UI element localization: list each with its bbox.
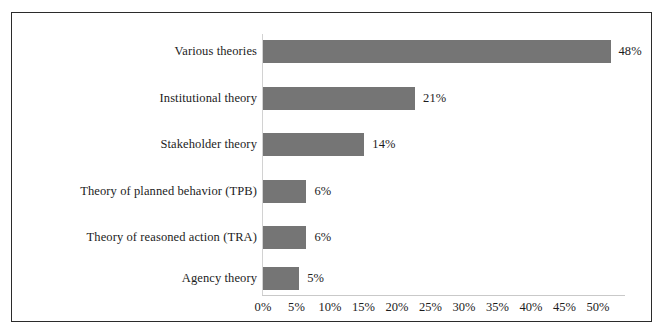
chart-figure: Various theories 48% Institutional theor…: [0, 0, 667, 335]
bar-various-theories[interactable]: [263, 40, 611, 63]
category-label-theory-of-reasoned-action: Theory of reasoned action (TRA): [87, 230, 257, 245]
bar-value-theory-of-planned-behavior: 6%: [314, 184, 331, 199]
bar-value-theory-of-reasoned-action: 6%: [314, 230, 331, 245]
xtick-label-4: 20%: [385, 300, 408, 315]
bar-agency-theory[interactable]: [263, 267, 299, 290]
bar-value-various-theories: 48%: [619, 44, 642, 59]
xtick-label-5: 25%: [419, 300, 442, 315]
bar-theory-of-planned-behavior[interactable]: [263, 180, 306, 203]
xtick-label-10: 50%: [586, 300, 609, 315]
xtick-label-1: 5%: [288, 300, 305, 315]
category-label-agency-theory: Agency theory: [182, 271, 257, 286]
bar-theory-of-reasoned-action[interactable]: [263, 226, 306, 249]
category-axis-line: [262, 34, 263, 295]
bar-value-agency-theory: 5%: [307, 271, 324, 286]
bar-value-stakeholder-theory: 14%: [372, 137, 395, 152]
category-label-stakeholder-theory: Stakeholder theory: [160, 137, 257, 152]
bar-institutional-theory[interactable]: [263, 87, 415, 110]
value-axis-line: [262, 295, 625, 296]
xtick-label-3: 15%: [352, 300, 375, 315]
xtick-label-9: 45%: [553, 300, 576, 315]
bar-value-institutional-theory: 21%: [423, 91, 446, 106]
xtick-label-6: 30%: [452, 300, 475, 315]
xtick-label-8: 40%: [519, 300, 542, 315]
bar-chart-plot-area: Various theories 48% Institutional theor…: [0, 0, 667, 335]
xtick-label-2: 10%: [318, 300, 341, 315]
xtick-label-0: 0%: [255, 300, 272, 315]
category-label-various-theories: Various theories: [175, 44, 257, 59]
category-label-institutional-theory: Institutional theory: [160, 91, 257, 106]
bar-stakeholder-theory[interactable]: [263, 133, 364, 156]
category-label-theory-of-planned-behavior: Theory of planned behavior (TPB): [80, 184, 257, 199]
xtick-label-7: 35%: [486, 300, 509, 315]
